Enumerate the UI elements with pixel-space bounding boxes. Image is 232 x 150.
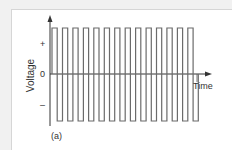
x-axis-arrow-icon [205,72,212,77]
y-axis-label: Voltage [25,56,36,96]
x-axis-label: Time [193,82,213,91]
y-axis-arrow-icon [48,15,53,22]
panel-label: (a) [51,132,62,141]
y-tick-zero: 0 [40,70,45,79]
y-tick-minus: – [40,101,45,110]
y-tick-plus: + [40,40,45,49]
